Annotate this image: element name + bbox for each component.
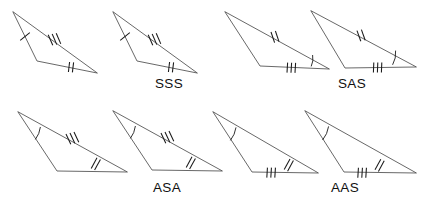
angle-arc-apex — [230, 127, 236, 140]
tick-group-right-side-2 — [186, 157, 195, 169]
tick-group-right-side-2 — [375, 159, 384, 171]
asa-triangle-left — [18, 112, 127, 172]
angle-arc-apex — [35, 127, 40, 139]
tick-group-left-side-1 — [120, 33, 130, 41]
aas-triangle-right — [305, 111, 416, 178]
triangle-outline — [113, 12, 197, 73]
case-label-sas: SAS — [338, 76, 366, 91]
tick-group-upper-side-3 — [148, 33, 161, 45]
sss-triangle-left — [13, 12, 97, 73]
angle-arc-bottom-right — [311, 55, 313, 66]
congruence-criteria-figure: SSS — [0, 0, 427, 202]
triangle-outline — [13, 12, 97, 73]
angle-arc-bottom-right — [393, 51, 396, 65]
triangle-outline — [213, 112, 318, 173]
case-group-asa: ASA — [18, 111, 222, 195]
tick-group-right-side-2 — [284, 159, 293, 171]
tick-group-bottom-side-2 — [68, 62, 73, 72]
sas-triangle-left — [225, 12, 329, 73]
angle-arc-apex — [323, 126, 329, 140]
angle-arc-apex — [130, 126, 135, 138]
asa-triangle-right — [113, 111, 222, 171]
tick-group-right-side-2 — [91, 158, 100, 170]
case-label-asa: ASA — [153, 180, 181, 195]
tick-group-bottom-side-3 — [358, 168, 367, 178]
aas-triangle-left — [213, 112, 318, 178]
case-group-sss: SSS — [13, 12, 197, 91]
case-group-aas: AAS — [213, 111, 416, 195]
triangle-outline — [305, 111, 416, 173]
tick-group-left-side-1 — [20, 33, 30, 41]
sss-triangle-right — [113, 12, 197, 73]
triangle-outline — [225, 12, 329, 69]
sas-triangle-right — [311, 11, 416, 72]
triangle-outline — [18, 112, 127, 172]
tick-group-bottom-side-2 — [168, 62, 173, 72]
triangle-outline — [113, 111, 222, 171]
tick-group-upper-side-3 — [48, 33, 61, 45]
case-group-sas: SAS — [225, 11, 416, 91]
case-label-sss: SSS — [155, 76, 183, 91]
triangle-outline — [311, 11, 416, 68]
case-label-aas: AAS — [331, 180, 359, 195]
